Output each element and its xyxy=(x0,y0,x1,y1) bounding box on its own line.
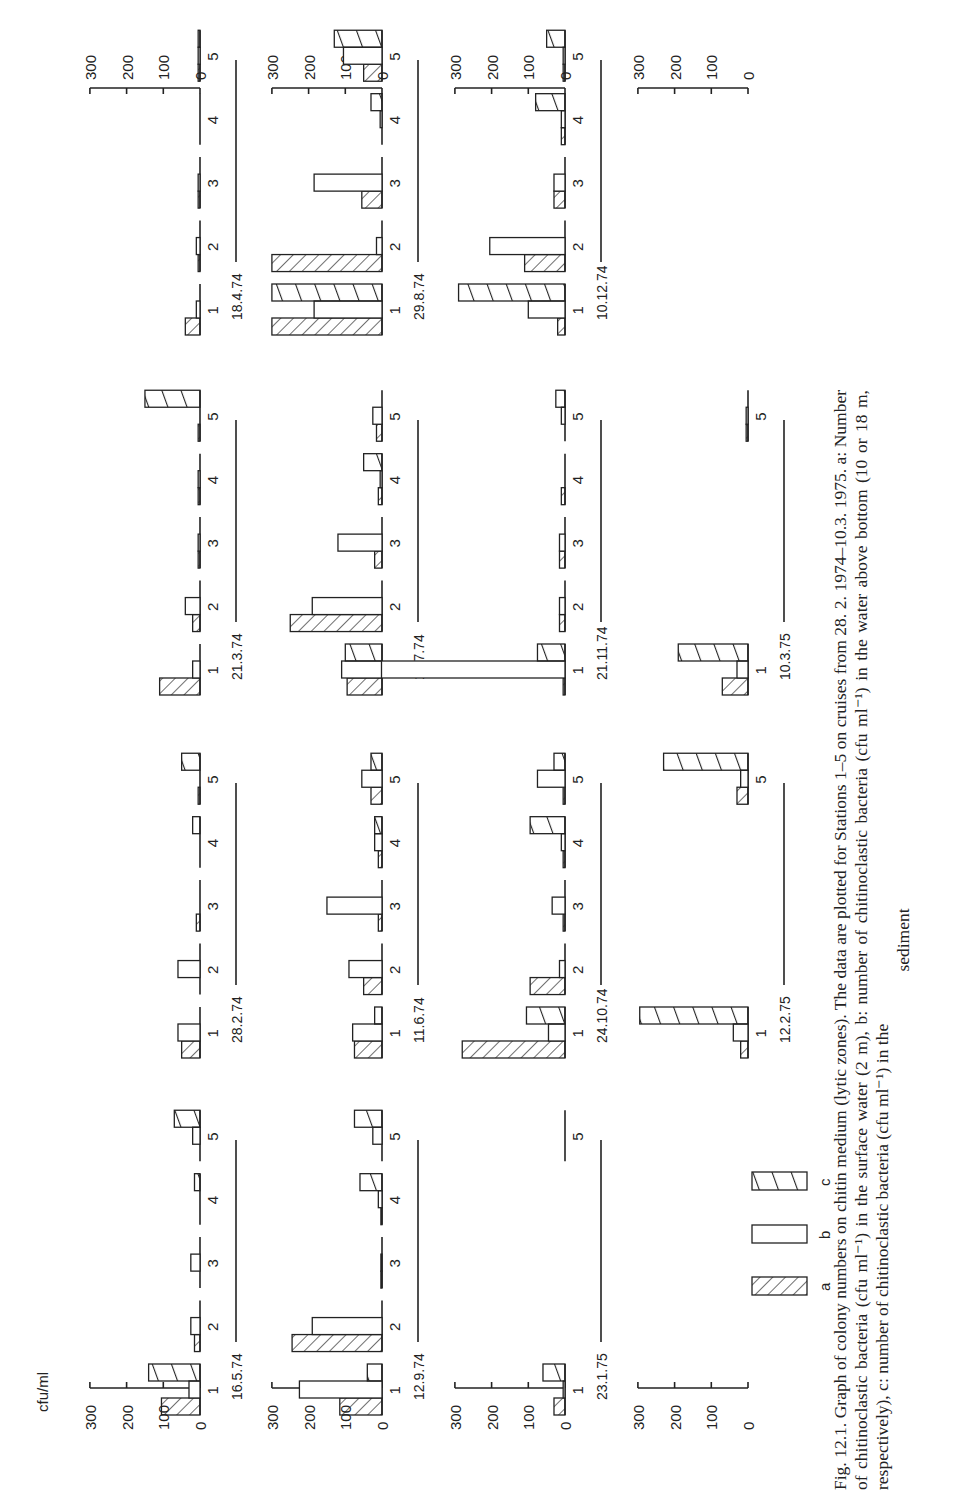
bar-b xyxy=(381,1254,382,1271)
station-label: 3 xyxy=(569,179,586,187)
bar-a xyxy=(371,787,382,804)
bar-b xyxy=(554,174,565,191)
bar-a xyxy=(563,914,565,931)
station-label: 1 xyxy=(569,1386,586,1394)
bar-c xyxy=(371,753,382,770)
station-label: 1 xyxy=(386,1386,403,1394)
station-label: 5 xyxy=(569,52,586,60)
station-label: 2 xyxy=(204,243,221,251)
bar-a xyxy=(376,424,382,441)
panel-12-9-74: 12.9.7412345 xyxy=(292,1110,427,1415)
station-label: 2 xyxy=(204,966,221,974)
legend-swatch xyxy=(752,1172,807,1190)
bar-a xyxy=(340,1398,382,1415)
station-group: 2 xyxy=(559,581,586,632)
bar-b xyxy=(338,534,382,551)
bar-b xyxy=(733,1024,748,1041)
station-group: 2 xyxy=(178,944,221,995)
caption-last-line: sediment xyxy=(893,390,914,1490)
cruise-date-label: 10.12.74 xyxy=(594,265,610,320)
bar-b xyxy=(314,174,382,191)
bar-b xyxy=(327,897,382,914)
station-label: 4 xyxy=(204,1196,221,1204)
axis-tick-label: 200 xyxy=(484,1405,501,1430)
station-group: 1 xyxy=(640,1007,769,1058)
bar-c xyxy=(526,1007,565,1024)
station-group: 2 xyxy=(290,581,403,632)
bar-a xyxy=(561,488,565,505)
station-label: 1 xyxy=(569,1029,586,1037)
bar-a xyxy=(561,128,565,145)
station-label: 5 xyxy=(386,412,403,420)
bar-c xyxy=(360,1174,382,1191)
axis-tick-label: 300 xyxy=(447,1405,464,1430)
panel-11-6-74: 11.6.7412345 xyxy=(327,753,427,1058)
axis-tick-label: 0 xyxy=(740,1422,757,1430)
bar-a xyxy=(559,551,565,568)
axis-tick-label: 300 xyxy=(82,1405,99,1430)
bar-a xyxy=(272,255,382,272)
bar-a xyxy=(182,1041,200,1058)
station-label: 5 xyxy=(204,775,221,783)
station-group: 4 xyxy=(371,94,403,145)
bar-a xyxy=(741,1041,748,1058)
station-label: 2 xyxy=(386,243,403,251)
station-group: 1 xyxy=(543,1364,586,1415)
cruise-date-label: 23.1.75 xyxy=(594,1353,610,1400)
legend-swatch xyxy=(752,1277,807,1295)
station-group: 1 xyxy=(178,1007,221,1058)
chart-panels: 16.5.741234512.9.741234523.1.751528.2.74… xyxy=(145,30,793,1415)
station-label: 5 xyxy=(204,52,221,60)
axis-tick-label: 300 xyxy=(82,55,99,80)
bar-a xyxy=(196,914,200,931)
bar-b xyxy=(189,1381,200,1398)
station-group: 2 xyxy=(490,221,586,272)
station-label: 4 xyxy=(204,116,221,124)
station-label: 3 xyxy=(569,539,586,547)
station-group: 3 xyxy=(381,1237,403,1288)
axis-tick-label: 100 xyxy=(520,1405,537,1430)
station-group: 3 xyxy=(338,517,403,568)
station-group: 3 xyxy=(196,880,221,931)
panel-21-3-74: 21.3.7412345 xyxy=(145,390,245,695)
bar-b xyxy=(314,301,382,318)
bar-c xyxy=(364,454,382,471)
bar-a xyxy=(364,978,382,995)
station-group: 5 xyxy=(182,753,221,804)
bar-a xyxy=(198,551,200,568)
bar-b xyxy=(563,47,565,64)
bar-a xyxy=(381,1208,382,1225)
cruise-date-label: 12.2.75 xyxy=(777,996,793,1043)
cruise-date-label: 18.4.74 xyxy=(229,273,245,320)
bar-b xyxy=(528,301,565,318)
station-label: 2 xyxy=(569,603,586,611)
bar-b xyxy=(196,238,200,255)
station-label: 5 xyxy=(386,52,403,60)
legend-swatch xyxy=(752,1225,807,1243)
axis-tick-label: 100 xyxy=(520,55,537,80)
bar-c xyxy=(556,390,565,407)
value-axis: 3002001000 xyxy=(630,1382,757,1430)
axis-tick-label: 200 xyxy=(667,1405,684,1430)
bar-b xyxy=(193,661,200,678)
station-label: 3 xyxy=(204,179,221,187)
cruise-date-label: 28.2.74 xyxy=(229,996,245,1043)
cruise-date-label: 24.10.74 xyxy=(594,988,610,1043)
bar-a xyxy=(362,191,382,208)
panel-24-10-74: 24.10.7412345 xyxy=(462,753,610,1058)
axis-tick-label: 200 xyxy=(667,55,684,80)
bar-a xyxy=(198,488,200,505)
value-axis: 3002001000 xyxy=(447,55,574,94)
unit-label: cfu/ml xyxy=(34,1372,51,1412)
bar-a xyxy=(378,851,382,868)
bar-a xyxy=(375,551,382,568)
bar-c xyxy=(367,1364,382,1381)
station-label: 5 xyxy=(204,1132,221,1140)
bar-b xyxy=(741,770,748,787)
station-label: 1 xyxy=(204,306,221,314)
station-group: 4 xyxy=(194,1174,221,1225)
panel-11-7-74: 11.7.7412345 xyxy=(290,390,427,695)
legend-item-a: a xyxy=(752,1277,833,1295)
station-group: 1 xyxy=(272,284,403,335)
station-label: 1 xyxy=(752,666,769,674)
